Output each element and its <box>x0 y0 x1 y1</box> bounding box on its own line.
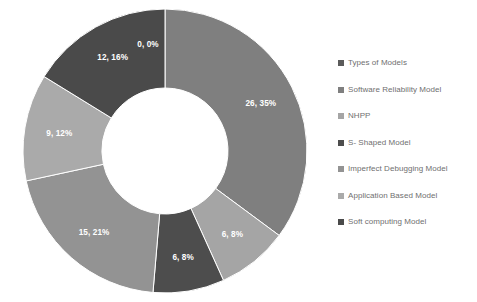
slice-data-label: 26, 35% <box>245 99 276 108</box>
legend-item[interactable]: NHPP <box>338 111 477 138</box>
legend-swatch-icon <box>338 87 344 93</box>
legend-swatch-icon <box>338 166 344 172</box>
legend-item-label: Types of Models <box>348 58 407 68</box>
legend-item-label: Imperfect Debugging Model <box>348 164 448 174</box>
slice-data-label: 15, 21% <box>79 228 110 237</box>
legend-swatch-icon <box>338 219 344 225</box>
legend-item[interactable]: Software Reliability Model <box>338 85 477 112</box>
slice-data-label: 9, 12% <box>46 129 73 138</box>
legend-item[interactable]: Application Based Model <box>338 191 477 218</box>
legend-item[interactable]: S- Shaped Model <box>338 138 477 165</box>
legend-swatch-icon <box>338 140 344 146</box>
legend-swatch-icon <box>338 193 344 199</box>
doughnut-chart-svg: 0, 0%26, 35%6, 8%6, 8%15, 21%9, 12%12, 1… <box>22 6 308 296</box>
legend-swatch-icon <box>338 60 344 66</box>
slice-group <box>23 9 307 293</box>
legend-item-label: NHPP <box>348 111 370 121</box>
pie-slice[interactable] <box>165 9 307 235</box>
legend-item-label: Software Reliability Model <box>348 85 441 95</box>
doughnut-chart-plot-area: 0, 0%26, 35%6, 8%6, 8%15, 21%9, 12%12, 1… <box>0 0 330 302</box>
legend-item-label: Application Based Model <box>348 191 437 201</box>
slice-data-label: 6, 8% <box>222 230 244 239</box>
slice-data-label: 0, 0% <box>137 40 159 49</box>
slice-data-label: 12, 16% <box>97 53 128 62</box>
slice-data-label: 6, 8% <box>172 253 194 262</box>
legend-item[interactable]: Soft computing Model <box>338 217 477 244</box>
legend-item[interactable]: Imperfect Debugging Model <box>338 164 477 191</box>
legend-item-label: S- Shaped Model <box>348 138 411 148</box>
legend-item-label: Soft computing Model <box>348 217 426 227</box>
legend-item[interactable]: Types of Models <box>338 58 477 85</box>
legend-swatch-icon <box>338 113 344 119</box>
chart-legend: Types of ModelsSoftware Reliability Mode… <box>338 58 477 244</box>
